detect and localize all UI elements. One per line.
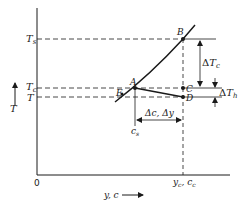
label-delta-tc: ΔTc bbox=[202, 57, 220, 70]
label-cs: cs bbox=[131, 126, 139, 137]
label-yc-cc: yc, cc bbox=[172, 177, 196, 188]
point-c bbox=[181, 86, 185, 90]
label-delta-th: ΔTh bbox=[219, 87, 237, 100]
mass-heat-transfer-diagram: Ts Tc T T 0 B A E C D ΔTc ΔTh Δc, Δy cs … bbox=[0, 0, 247, 205]
y-axis-label: T bbox=[10, 103, 18, 114]
x-axis-label: y, c bbox=[103, 190, 119, 200]
label-delta-c-y: Δc, Δy bbox=[144, 108, 175, 118]
label-ts: Ts bbox=[26, 33, 37, 46]
origin-label: 0 bbox=[34, 178, 40, 188]
point-d bbox=[181, 95, 185, 99]
label-b: B bbox=[176, 27, 184, 37]
label-d: D bbox=[185, 93, 193, 103]
line-a-to-d bbox=[135, 88, 183, 97]
point-b bbox=[181, 37, 185, 41]
label-a: A bbox=[129, 77, 137, 87]
label-e: E bbox=[115, 88, 123, 98]
